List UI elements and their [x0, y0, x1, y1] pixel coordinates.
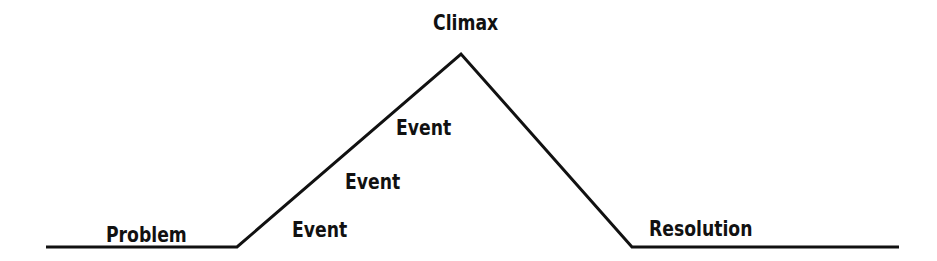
plot-line [46, 54, 899, 247]
problem-label: Problem [106, 225, 187, 246]
event-label-top: Event [396, 118, 451, 139]
resolution-label: Resolution [649, 219, 752, 240]
event-label-bottom: Event [292, 220, 347, 241]
event-label-middle: Event [345, 172, 400, 193]
plot-diagram-lines [0, 0, 937, 261]
climax-label: Climax [433, 13, 498, 34]
